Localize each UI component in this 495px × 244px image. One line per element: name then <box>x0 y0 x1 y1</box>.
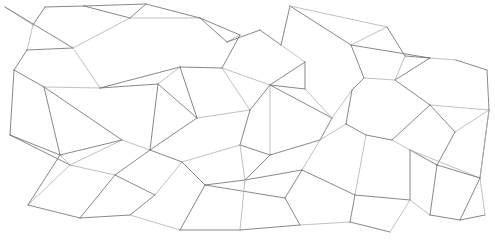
network-edge <box>70 165 115 175</box>
network-edge <box>10 135 60 155</box>
network-edge <box>437 165 480 178</box>
network-edge <box>351 45 364 78</box>
network-edge <box>205 185 285 198</box>
network-edge <box>180 67 222 68</box>
network-edge <box>270 85 332 118</box>
network-edge <box>10 70 14 135</box>
network-edge <box>302 170 355 195</box>
network-edge <box>115 150 150 175</box>
network-edge <box>352 78 364 90</box>
network-edge <box>182 162 205 185</box>
network-edge <box>410 150 480 178</box>
network-edge <box>395 58 430 80</box>
network-edge <box>130 4 146 18</box>
network-edge <box>28 155 60 205</box>
network-edge <box>180 185 205 230</box>
network-edge <box>122 140 150 150</box>
network-edge <box>73 48 100 88</box>
network-edge <box>240 225 300 230</box>
network-edge <box>150 118 197 150</box>
network-edge <box>480 178 485 215</box>
network-edge <box>392 105 430 140</box>
network-edge <box>320 124 346 140</box>
network-edge <box>80 215 130 218</box>
network-edge <box>430 215 460 220</box>
network-edge <box>437 132 455 165</box>
network-edge <box>270 85 305 89</box>
network-edge <box>200 18 227 42</box>
network-edge <box>430 165 437 215</box>
network-edge <box>146 4 200 18</box>
network-edge <box>350 222 390 232</box>
network-edge <box>366 135 392 140</box>
network-edge <box>487 70 489 110</box>
network-edges <box>5 4 489 232</box>
network-edge <box>395 80 430 105</box>
network-edge <box>392 140 410 150</box>
network-edge <box>351 27 387 45</box>
network-edge <box>270 62 305 85</box>
network-edge <box>240 145 270 155</box>
network-edge <box>430 105 455 132</box>
network-edge <box>44 87 60 155</box>
network-edge <box>455 110 489 132</box>
network-edge <box>456 60 487 70</box>
network-edge <box>281 45 305 62</box>
network-edge <box>14 70 44 87</box>
network-edge <box>130 195 155 215</box>
network-edge <box>346 124 366 135</box>
line-network-pattern <box>0 0 495 244</box>
network-edge <box>84 4 146 6</box>
network-edge <box>115 175 155 195</box>
network-edge <box>290 6 351 45</box>
network-edge <box>281 6 290 45</box>
network-edge <box>285 198 300 225</box>
network-edge <box>305 89 332 118</box>
network-edge <box>260 30 281 45</box>
network-edge <box>364 78 395 80</box>
network-edge <box>14 50 27 70</box>
network-edge <box>285 170 302 198</box>
network-edge <box>28 205 80 218</box>
network-edge <box>350 195 355 222</box>
network-edge <box>130 215 180 230</box>
network-edge <box>84 6 130 18</box>
network-edge <box>240 145 245 180</box>
network-edge <box>410 200 430 215</box>
network-edge <box>300 222 350 225</box>
network-edge <box>290 6 387 27</box>
network-edge <box>240 180 245 230</box>
network-edge <box>70 140 122 165</box>
network-edge <box>355 195 410 200</box>
network-edge <box>480 110 489 178</box>
network-edge <box>45 6 84 7</box>
network-edge <box>5 7 73 48</box>
network-edge <box>346 90 352 124</box>
network-edge <box>410 150 437 165</box>
network-edge <box>150 150 182 162</box>
network-edge <box>60 155 70 165</box>
network-edge <box>222 68 270 85</box>
network-edge <box>33 7 45 25</box>
network-edge <box>390 200 410 232</box>
network-edge <box>28 165 70 205</box>
network-edge <box>73 18 130 48</box>
network-edge <box>205 180 245 185</box>
network-edge <box>150 84 158 150</box>
network-edge <box>60 140 122 155</box>
network-edge <box>10 135 70 165</box>
network-edge <box>250 85 270 110</box>
network-edge <box>80 175 115 218</box>
network-edge <box>430 105 489 110</box>
network-edge <box>460 215 485 220</box>
network-edge <box>197 110 250 118</box>
network-edge <box>332 90 352 118</box>
network-edge <box>355 135 366 195</box>
network-edge <box>200 18 240 35</box>
network-edge <box>460 178 480 220</box>
network-edge <box>44 87 122 140</box>
network-edge <box>44 87 100 88</box>
network-edge <box>155 162 182 195</box>
network-edge <box>240 110 250 145</box>
network-edge <box>27 25 33 50</box>
